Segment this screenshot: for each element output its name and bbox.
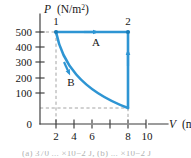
x-tick-label-8b: 8	[125, 130, 131, 142]
point-label-2: 2	[125, 15, 131, 27]
y-tick-label-0: 0	[27, 118, 33, 130]
y-axis-unit-main: (N/m	[57, 3, 81, 16]
x-tick-label-2b: 2	[53, 130, 59, 142]
point-2-marker	[126, 30, 130, 34]
svg-text:V (m3): V (m3)	[169, 118, 191, 132]
guide-lines	[40, 32, 128, 124]
clipped-caption-strip: (a) 370 ... ×10−2 J, (b) ... ×10−2 J	[0, 151, 191, 158]
x-axis-title: V (m3)	[169, 118, 191, 132]
pv-diagram-figure: 500 400 300 200 100 0 2 4 6 8 10 2 4 6 8…	[0, 0, 191, 158]
path-label-B: B	[67, 76, 74, 88]
x-tick-label-4b: 4	[71, 130, 77, 142]
x-axis-unit-main: (m	[182, 118, 191, 131]
y-axis-title: P (N/m2)	[43, 3, 89, 17]
clipped-caption-text: (a) 370 ... ×10−2 J, (b) ... ×10−2 J	[22, 151, 191, 158]
y-tick-label-300: 300	[16, 56, 33, 68]
path-label-A: A	[92, 36, 100, 48]
x-axis-symbol: V	[169, 118, 178, 130]
point-1-marker	[54, 30, 58, 34]
x-tick-label-10c: 10	[142, 130, 154, 142]
y-tick-label-400: 400	[16, 41, 33, 53]
pv-diagram-canvas: 500 400 300 200 100 0 2 4 6 8 10 2 4 6 8…	[0, 0, 191, 158]
y-axis-symbol: P	[43, 3, 51, 15]
point-label-1: 1	[53, 15, 59, 27]
y-axis-unit-tail: )	[85, 3, 89, 16]
y-tick-label-500: 500	[16, 26, 33, 38]
y-tick-label-200: 200	[16, 72, 33, 84]
y-tick-label-100: 100	[16, 87, 33, 99]
x-tick-label-6b: 6	[89, 130, 95, 142]
svg-text:P (N/m2): P (N/m2)	[43, 3, 89, 17]
